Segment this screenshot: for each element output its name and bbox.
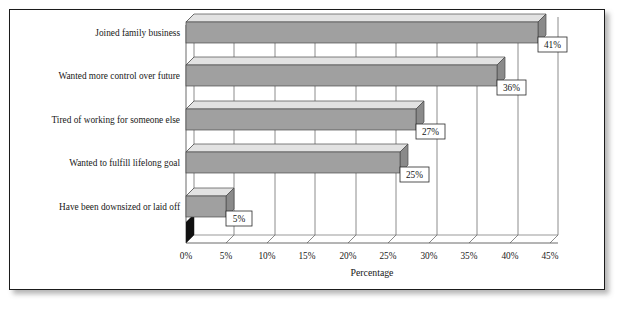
bar-front-face [186,196,226,217]
bar-front-face [186,152,400,173]
bar-wanted-to-fulfill-lifelong-goal [186,144,408,173]
svg-text:27%: 27% [422,127,439,137]
grid-depth-connectors [186,235,558,243]
x-tick-label: 45% [541,251,558,261]
x-tick-label: 15% [298,251,315,261]
bar-joined-family-business [186,14,546,43]
chart-figure: Joined family business Wanted more contr… [0,0,625,310]
x-tick-label: 0% [180,251,193,261]
bar-front-face [186,22,538,43]
category-label: Have been downsized or laid off [59,202,181,212]
x-axis-title: Percentage [351,267,395,278]
bar-chart-plot: Joined family business Wanted more contr… [0,0,625,310]
svg-text:25%: 25% [406,170,423,180]
svg-text:5%: 5% [233,214,246,224]
category-label: Joined family business [95,28,180,38]
bar-top-face [186,101,424,109]
category-label: Wanted more control over future [58,71,180,81]
bar-top-face [186,144,408,152]
data-label-5: 5% [226,211,252,226]
bar-top-face [186,14,546,22]
bar-top-face [186,57,505,65]
x-tick-label: 30% [420,251,437,261]
data-label-36: 36% [497,80,526,95]
category-labels: Joined family business Wanted more contr… [52,28,181,212]
data-label-25: 25% [400,167,429,182]
svg-text:41%: 41% [544,40,561,50]
bar-tired-of-working-for-someone-else [186,101,424,130]
data-label-27: 27% [416,124,445,139]
category-label: Wanted to fulfill lifelong goal [69,158,180,168]
x-tick-label: 20% [339,251,356,261]
bar-front-face [186,109,416,130]
bar-wanted-more-control-over-future [186,57,505,86]
category-label: Tired of working for someone else [52,115,181,125]
x-axis-tick-labels: 0% 5% 10% 15% 20% 25% 30% 35% 40% 45% [180,251,559,261]
svg-text:36%: 36% [503,83,520,93]
data-label-41: 41% [538,37,567,52]
x-tick-label: 40% [501,251,518,261]
x-tick-label: 35% [460,251,477,261]
bar-front-face [186,65,497,86]
x-tick-label: 5% [220,251,233,261]
x-tick-label: 10% [258,251,275,261]
x-tick-label: 25% [379,251,396,261]
